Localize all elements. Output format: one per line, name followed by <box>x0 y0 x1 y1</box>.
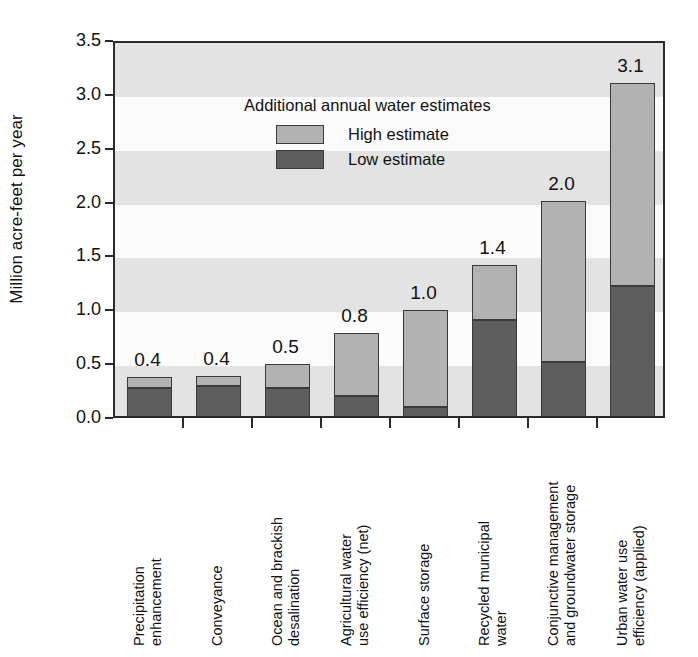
legend-item-high: High estimate <box>276 122 544 147</box>
category-label-line2: enhancement <box>147 558 164 646</box>
x-axis-tick <box>389 418 391 428</box>
x-axis-tick <box>251 418 253 428</box>
bar-segment-low <box>127 388 172 418</box>
bar[interactable] <box>196 376 241 418</box>
y-axis-title: Million acre-feet per year <box>0 0 34 418</box>
x-axis-tick <box>596 418 598 428</box>
legend-swatch-low <box>276 150 324 169</box>
y-tick-label: 3.0 <box>41 83 101 105</box>
bar-segment-low <box>196 386 241 418</box>
category-label-line2: water <box>492 521 509 646</box>
legend-item-low: Low estimate <box>276 147 544 172</box>
x-axis-tick <box>458 418 460 428</box>
category-label-line2: efficiency (applied) <box>630 525 647 646</box>
x-axis-category-label: Surface storage <box>416 544 433 646</box>
bar-segment-low <box>541 362 586 418</box>
y-tick-label: 0.0 <box>41 406 101 428</box>
bar-value-label: 2.0 <box>532 173 592 195</box>
category-label-line1: Conjunctive management <box>545 482 561 646</box>
gridline-band <box>115 43 663 97</box>
chart-figure: Million acre-feet per year 0.00.51.01.52… <box>0 0 698 657</box>
x-axis-category-label: Recycled municipalwater <box>476 521 509 646</box>
y-tick-mark <box>105 417 113 419</box>
bar-value-label: 0.4 <box>187 348 247 370</box>
bar-segment-low <box>265 388 310 418</box>
bar[interactable] <box>403 310 448 418</box>
y-tick-label: 0.5 <box>41 352 101 374</box>
category-label-line1: Surface storage <box>416 544 432 646</box>
y-tick-mark <box>105 40 113 42</box>
category-label-line2: desalination <box>285 517 302 646</box>
x-axis-category-label: Ocean and brackishdesalination <box>269 517 302 646</box>
legend-title: Additional annual water estimates <box>244 95 544 115</box>
y-tick-mark <box>105 202 113 204</box>
y-tick-label: 3.5 <box>41 29 101 51</box>
y-tick-mark <box>105 94 113 96</box>
y-tick-label: 1.5 <box>41 244 101 266</box>
bar-segment-high <box>403 310 448 407</box>
bar-value-label: 0.4 <box>118 349 178 371</box>
bar-segment-high <box>610 83 655 287</box>
bar-segment-low <box>334 396 379 418</box>
bar-value-label: 0.8 <box>325 305 385 327</box>
chart-legend: Additional annual water estimates High e… <box>244 95 544 172</box>
category-label-line1: Conveyance <box>209 565 225 646</box>
bar-segment-high <box>472 265 517 320</box>
x-axis-category-label: Conveyance <box>209 565 226 646</box>
x-axis-tick <box>320 418 322 428</box>
y-tick-mark <box>105 363 113 365</box>
bar-segment-low <box>403 407 448 418</box>
bar-value-label: 1.0 <box>394 282 454 304</box>
bar-segment-low <box>472 320 517 418</box>
x-axis-category-label: Agricultural wateruse efficiency (net) <box>338 525 371 646</box>
bar[interactable] <box>334 333 379 418</box>
bar[interactable] <box>127 377 172 418</box>
x-axis-category-label: Precipitationenhancement <box>131 558 164 646</box>
x-axis-tick <box>527 418 529 428</box>
bar[interactable] <box>265 364 310 418</box>
legend-swatch-high <box>276 125 324 144</box>
bar-segment-high <box>541 201 586 361</box>
bar[interactable] <box>541 201 586 418</box>
bar-value-label: 0.5 <box>256 336 316 358</box>
x-axis-category-label: Urban water useefficiency (applied) <box>614 525 647 646</box>
bar[interactable] <box>610 83 655 418</box>
bar-segment-high <box>334 333 379 397</box>
legend-label-high: High estimate <box>348 125 449 144</box>
bar-segment-high <box>265 364 310 388</box>
category-label-line1: Urban water use <box>614 540 630 646</box>
legend-label-low: Low estimate <box>348 150 445 169</box>
bar[interactable] <box>472 265 517 418</box>
y-tick-mark <box>105 255 113 257</box>
category-label-line2: use efficiency (net) <box>354 525 371 646</box>
category-label-line1: Ocean and brackish <box>269 517 285 646</box>
bar-value-label: 3.1 <box>601 55 661 77</box>
x-axis-category-label: Conjunctive managementand groundwater st… <box>545 482 578 646</box>
y-tick-label: 2.5 <box>41 137 101 159</box>
y-tick-label: 2.0 <box>41 191 101 213</box>
category-label-line1: Recycled municipal <box>476 521 492 646</box>
y-tick-mark <box>105 148 113 150</box>
x-axis-tick <box>182 418 184 428</box>
category-label-line1: Agricultural water <box>338 534 354 646</box>
category-label-line2: and groundwater storage <box>561 482 578 646</box>
category-label-line1: Precipitation <box>131 566 147 646</box>
y-tick-mark <box>105 309 113 311</box>
bar-value-label: 1.4 <box>463 237 523 259</box>
y-tick-label: 1.0 <box>41 298 101 320</box>
bar-segment-high <box>196 376 241 386</box>
bar-segment-low <box>610 286 655 418</box>
bar-segment-high <box>127 377 172 388</box>
